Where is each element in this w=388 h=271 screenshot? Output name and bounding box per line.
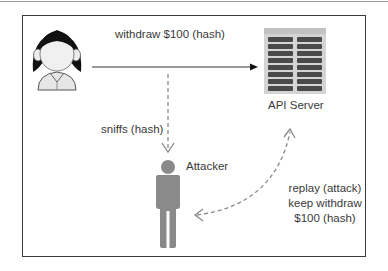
replay-label: replay (attack) keep withdraw $100 (hash…: [285, 181, 365, 226]
server-rack-icon: [264, 28, 326, 94]
replay-arrow: [195, 129, 295, 221]
user-woman-icon: [33, 30, 82, 90]
replay-label-line-3: $100 (hash): [285, 211, 365, 226]
request-arrow: [92, 64, 258, 71]
sniff-label: sniffs (hash): [101, 122, 163, 136]
server-label: API Server: [268, 98, 324, 112]
attacker-label: Attacker: [186, 159, 228, 173]
replay-label-line-2: keep withdraw: [285, 196, 365, 211]
sniff-arrow: [162, 74, 174, 152]
replay-label-line-1: replay (attack): [285, 181, 365, 196]
attacker-person-icon: [156, 160, 180, 248]
request-label: withdraw $100 (hash): [115, 27, 225, 41]
